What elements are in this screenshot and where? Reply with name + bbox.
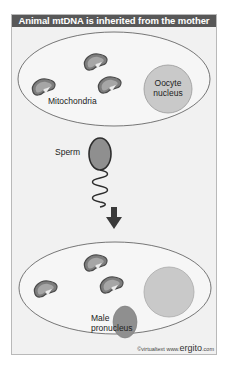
oocyte-cell-bottom: Male pronucleus [19,242,211,338]
mitochondria-label: Mitochondria [48,96,97,106]
male-pronucleus [113,306,137,338]
oocyte-nucleus: Oocyte nucleus [144,65,192,113]
credit-suffix: .com [202,346,214,352]
down-arrow-icon [106,207,122,229]
pronucleus-label-line2: pronucleus [91,323,133,333]
pronucleus-label-line1: Male [91,313,110,323]
sperm-label: Sperm [55,147,80,157]
inheritance-diagram: Mitochondria Oocyte nucleus Sperm Male p… [0,0,227,365]
copyright-credit: ©virtualtext www.ergito.com [137,343,214,353]
oocyte-cell-top: Mitochondria Oocyte nucleus [18,32,210,126]
credit-brand: ergito [180,343,203,353]
nucleus-label-line1: Oocyte [155,78,182,88]
sperm-icon [89,138,111,207]
female-pronucleus [144,267,194,317]
credit-prefix: ©virtualtext www. [137,346,179,352]
nucleus-label-line2: nucleus [153,88,182,98]
